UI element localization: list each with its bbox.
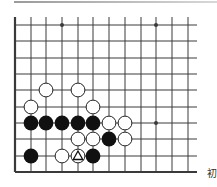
stones-layer xyxy=(24,83,132,163)
go-board xyxy=(0,0,217,187)
white-stone xyxy=(86,100,100,114)
white-stone-body xyxy=(86,132,100,146)
black-stone xyxy=(71,116,86,131)
white-stone xyxy=(55,149,69,163)
black-stone-body xyxy=(39,116,54,131)
white-stone xyxy=(118,116,132,130)
white-stone-body xyxy=(24,100,38,114)
white-stone xyxy=(71,132,85,146)
black-stone-body xyxy=(24,116,39,131)
white-stone xyxy=(102,116,116,130)
white-stone xyxy=(71,83,85,97)
white-stone-body xyxy=(118,132,132,146)
black-stone-body xyxy=(24,149,39,164)
black-stone-body xyxy=(71,116,86,131)
level-caption: 初 级 xyxy=(207,146,217,187)
black-stone xyxy=(86,116,101,131)
white-stone xyxy=(24,100,38,114)
white-stone xyxy=(71,149,85,163)
black-stone-body xyxy=(86,116,101,131)
black-stone-body xyxy=(86,149,101,164)
white-stone-body xyxy=(71,83,85,97)
star-point xyxy=(60,23,64,27)
white-stone xyxy=(118,132,132,146)
black-stone xyxy=(102,132,117,147)
black-stone xyxy=(24,116,39,131)
black-stone xyxy=(24,149,39,164)
black-stone xyxy=(55,116,70,131)
white-stone-body xyxy=(71,132,85,146)
white-stone-body xyxy=(55,149,69,163)
white-stone-body xyxy=(102,116,116,130)
star-point xyxy=(154,121,158,125)
black-stone-body xyxy=(55,116,70,131)
white-stone-body xyxy=(86,100,100,114)
caption-line-1: 初 xyxy=(207,168,217,179)
black-stone xyxy=(86,149,101,164)
black-stone-body xyxy=(102,132,117,147)
star-point xyxy=(154,23,158,27)
white-stone xyxy=(39,83,53,97)
white-stone-body xyxy=(118,116,132,130)
white-stone xyxy=(86,132,100,146)
white-stone-body xyxy=(39,83,53,97)
black-stone xyxy=(39,116,54,131)
